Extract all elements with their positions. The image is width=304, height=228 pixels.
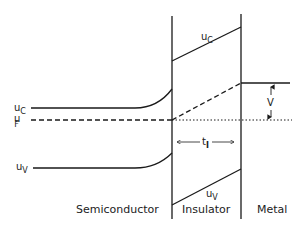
label-uv-insulator: uV xyxy=(206,188,218,202)
region-label-insulator: Insulator xyxy=(182,203,231,216)
band-diagram: uC uF uV uC uV tI V Semiconductor Insula… xyxy=(0,0,304,228)
label-uc-insulator: uC xyxy=(201,31,213,45)
label-uv-semiconductor: uV xyxy=(16,161,28,175)
insulator-valence-band xyxy=(172,169,241,205)
region-label-semiconductor: Semiconductor xyxy=(76,203,159,216)
label-voltage: V xyxy=(267,97,274,108)
semiconductor-conduction-band xyxy=(31,89,172,108)
label-uf-semiconductor: uF xyxy=(14,113,20,129)
insulator-potential-drop xyxy=(172,83,241,120)
semiconductor-valence-band xyxy=(33,153,172,168)
region-label-metal: Metal xyxy=(257,203,287,216)
label-thickness: tI xyxy=(202,136,209,150)
